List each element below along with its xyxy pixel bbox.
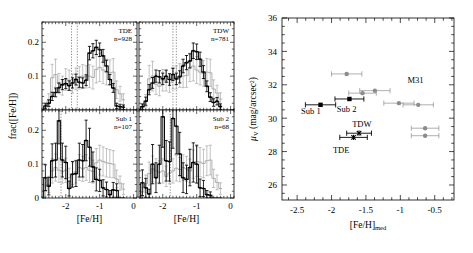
panel-count-sub2: n=68 (215, 123, 230, 131)
x-tick-label: -1 (96, 201, 104, 211)
data-marker (109, 79, 111, 81)
data-marker (141, 182, 143, 184)
data-marker (82, 160, 84, 162)
point-M31-g6 (423, 126, 427, 130)
x-tick-label: 0 (131, 201, 136, 211)
data-marker (209, 194, 211, 196)
figure-root: TDEn=9280.10.2TDWn=781Sub 1n=10700.10.2-… (0, 0, 473, 253)
x-axis-label-scatter: [Fe/H]med (350, 220, 387, 231)
data-marker (186, 178, 188, 180)
scatter-panel: -2.5-2-1.5-1-0.5262830323436[Fe/H]medμV … (248, 13, 454, 231)
panel-label-tdw: TDW (213, 27, 229, 35)
point-M31-g4 (397, 101, 401, 105)
data-marker (116, 190, 118, 192)
panel-count-sub1: n=107 (114, 123, 132, 131)
left-y-axis-label: frac([Fe/H]) (8, 93, 19, 139)
annotation-sub-2: Sub 2 (337, 104, 357, 114)
data-marker (44, 177, 46, 179)
data-marker (155, 177, 157, 179)
hist-panel-tde: TDEn=9280.10.2 (28, 22, 137, 110)
data-marker (158, 163, 160, 165)
data-marker (92, 50, 94, 52)
data-marker (169, 79, 171, 81)
data-marker (89, 146, 91, 148)
x-tick-label: 0 (228, 201, 233, 211)
panel-label-tde: TDE (118, 27, 132, 35)
hist-panel-sub1: Sub 1n=10700.10.2-2-10[Fe/H] (28, 98, 137, 224)
data-marker (175, 78, 177, 80)
data-marker (141, 106, 143, 108)
data-marker (192, 50, 194, 52)
astronomy-figure: TDEn=9280.10.2TDWn=781Sub 1n=10700.10.2-… (0, 0, 473, 253)
x-tick-label-scatter: -2 (328, 205, 336, 215)
x-tick-label-scatter: -1 (397, 205, 405, 215)
data-marker (152, 163, 154, 165)
data-marker (85, 140, 87, 142)
data-marker (119, 106, 121, 108)
x-axis-label: [Fe/H] (77, 214, 102, 224)
x-axis-label: [Fe/H] (174, 214, 199, 224)
data-marker (172, 74, 174, 76)
data-marker (123, 106, 125, 108)
data-marker (189, 60, 191, 62)
y-tick-label: 0.2 (28, 37, 39, 47)
data-marker (61, 159, 63, 161)
panel-count-tde: n=928 (114, 35, 132, 43)
data-marker (203, 188, 205, 190)
y-axis-label-scatter: μV (mag/arcsec²) (248, 77, 259, 142)
data-marker (209, 96, 211, 98)
data-marker (75, 173, 77, 175)
point-Sub 2 (347, 97, 351, 101)
data-marker (92, 166, 94, 168)
data-marker (162, 78, 164, 80)
data-marker (95, 46, 97, 48)
y-tick-label: 0.1 (28, 71, 39, 81)
data-marker (95, 178, 97, 180)
x-tick-label-scatter: -1.5 (359, 205, 374, 215)
x-tick-label: -2 (159, 201, 167, 211)
data-marker (109, 194, 111, 196)
data-marker (68, 188, 70, 190)
y-tick-label-scatter: 26 (268, 180, 278, 190)
data-marker (203, 71, 205, 73)
data-marker (112, 189, 114, 191)
data-marker (72, 173, 74, 175)
data-marker (99, 49, 101, 51)
data-marker (82, 82, 84, 84)
point-M31-g2 (360, 91, 364, 95)
data-marker (72, 82, 74, 84)
panel-label-sub2: Sub 2 (213, 115, 230, 123)
data-marker (78, 81, 80, 83)
data-marker (216, 100, 218, 102)
data-marker (58, 120, 60, 122)
data-marker (58, 87, 60, 89)
data-marker (192, 162, 194, 164)
data-marker (48, 185, 50, 187)
x-tick-label: -1 (193, 201, 201, 211)
annotation-tde: TDE (333, 145, 350, 155)
data-marker (89, 52, 91, 54)
point-M31-g3 (373, 88, 377, 92)
data-marker (61, 84, 63, 86)
data-marker (51, 160, 53, 162)
y-tick-label: 0.2 (28, 125, 39, 135)
data-marker (55, 92, 57, 94)
data-marker (148, 193, 150, 195)
data-marker (51, 96, 53, 98)
data-marker (169, 161, 171, 163)
data-marker (102, 55, 104, 57)
data-marker (145, 187, 147, 189)
x-tick-label-scatter: -2.5 (290, 205, 305, 215)
data-marker (206, 85, 208, 87)
data-marker (78, 159, 80, 161)
data-marker (213, 102, 215, 104)
y-tick-label: 0 (35, 193, 40, 203)
annotation-sub-1: Sub 1 (301, 106, 321, 116)
data-marker (189, 167, 191, 169)
data-marker (179, 153, 181, 155)
data-marker (48, 102, 50, 104)
data-marker (148, 89, 150, 91)
x-tick-label-scatter: -0.5 (428, 205, 443, 215)
data-marker (158, 76, 160, 78)
y-tick-label: 0.1 (28, 159, 39, 169)
